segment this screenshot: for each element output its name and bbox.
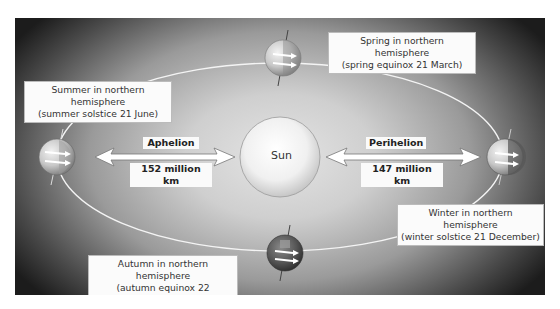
season-spring-line1: Spring in northern hemisphere — [332, 35, 472, 59]
season-winter-line1: Winter in northern hemisphere — [401, 207, 540, 231]
season-label-spring: Spring in northern hemisphere (spring eq… — [328, 32, 476, 74]
perihelion-distance: 147 million km — [361, 163, 443, 187]
sun-label: Sun — [271, 149, 292, 162]
earth-winter-icon — [487, 129, 526, 185]
aphelion-distance: 152 million km — [130, 163, 212, 187]
aphelion-label: Aphelion — [143, 137, 199, 149]
season-spring-line2: (spring equinox 21 March) — [332, 59, 472, 71]
earth-spring-icon — [265, 30, 301, 86]
season-autumn-line2: (autumn equinox 22 September) — [92, 282, 234, 295]
earth-summer-icon — [39, 129, 75, 185]
earth-autumn-icon — [267, 225, 303, 281]
season-label-winter: Winter in northern hemisphere (winter so… — [397, 204, 544, 246]
season-winter-line2: (winter solstice 21 December) — [401, 231, 540, 243]
season-autumn-line1: Autumn in northern hemisphere — [92, 258, 234, 282]
season-label-autumn: Autumn in northern hemisphere (autumn eq… — [88, 255, 238, 295]
season-summer-line2: (summer solstice 21 June) — [28, 108, 168, 120]
perihelion-label: Perihelion — [366, 137, 426, 149]
orbit-diagram: Sun Aphelion 152 million km Perihelion 1… — [15, 18, 545, 295]
season-label-summer: Summer in northern hemisphere (summer so… — [24, 81, 172, 123]
season-summer-line1: Summer in northern hemisphere — [28, 84, 168, 108]
